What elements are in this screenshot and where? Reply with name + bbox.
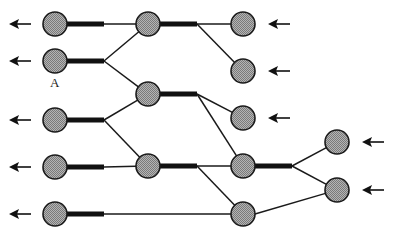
node-c1n2 — [43, 49, 67, 73]
edge-c1n4-c2n3 — [104, 166, 136, 167]
edge-c1n2-c2n2 — [104, 61, 138, 87]
bars-layer — [66, 24, 292, 214]
edge-c3n4-c4n2 — [292, 166, 326, 184]
node-c2n1 — [136, 12, 160, 36]
node-c1n5 — [43, 202, 67, 226]
edge-c1n3-c2n2 — [104, 100, 138, 120]
left-arrow-icon-c1n3 — [9, 115, 31, 125]
edge-c3n5-c4n2 — [255, 193, 325, 214]
left-arrow-icon-c1n4 — [9, 162, 31, 172]
node-c3n5 — [231, 202, 255, 226]
node-c4n1 — [325, 130, 349, 154]
left-arrow-icon-c1n5 — [9, 209, 31, 219]
node-c3n3 — [231, 106, 255, 130]
edges-layer — [104, 24, 326, 214]
edge-c3n4-c4n1 — [292, 148, 326, 166]
incoming-arrow-icon-c3n1 — [268, 19, 290, 29]
incoming-arrow-icon-c3n2 — [268, 66, 290, 76]
incoming-arrow-icon-c4n2 — [362, 185, 384, 195]
edge-c1n2-c2n1 — [104, 32, 139, 61]
node-c1n3 — [43, 108, 67, 132]
left-arrow-icon-c1n2 — [9, 56, 31, 66]
node-c4n2 — [325, 178, 349, 202]
node-c1n1 — [43, 12, 67, 36]
node-c3n2 — [231, 59, 255, 83]
node-c3n1 — [231, 12, 255, 36]
incoming-arrow-icon-c3n3 — [268, 113, 290, 123]
edge-c1n3-c2n3 — [104, 120, 140, 157]
node-label-a: A — [50, 75, 60, 90]
edge-c2n2-c3n4 — [197, 94, 237, 156]
node-c2n3 — [136, 154, 160, 178]
left-arrow-icon-c1n1 — [9, 19, 31, 29]
node-c3n4 — [231, 154, 255, 178]
merge-network-diagram: A — [0, 0, 393, 236]
incoming-arrow-icon-c4n1 — [362, 137, 384, 147]
edge-c2n3-c3n5 — [197, 166, 235, 205]
node-c1n4 — [43, 155, 67, 179]
edge-c2n1-c3n2 — [197, 24, 235, 62]
node-c2n2 — [136, 82, 160, 106]
